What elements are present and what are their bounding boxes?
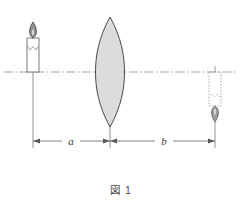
dimension-a: a xyxy=(33,135,110,147)
dimension-a-label: a xyxy=(68,135,74,147)
image-candle-body xyxy=(209,72,221,106)
figure-canvas: a b xyxy=(0,0,242,202)
dimension-b-label: b xyxy=(161,135,167,147)
dimension-a-arrow-left xyxy=(33,139,40,144)
dimension-b: b xyxy=(110,135,215,147)
inverted-candle-image xyxy=(209,72,221,122)
dimension-a-arrow-right xyxy=(103,139,110,144)
candle-object xyxy=(27,22,39,72)
lens-body xyxy=(96,17,125,127)
dimension-b-arrow-right xyxy=(208,139,215,144)
optics-figure: a b 図 1 xyxy=(0,0,242,202)
converging-lens xyxy=(96,17,125,127)
dimension-b-arrow-left xyxy=(110,139,117,144)
image-candle-wax-notch xyxy=(210,94,221,98)
candle-body xyxy=(27,38,39,72)
figure-caption: 図 1 xyxy=(0,182,242,197)
